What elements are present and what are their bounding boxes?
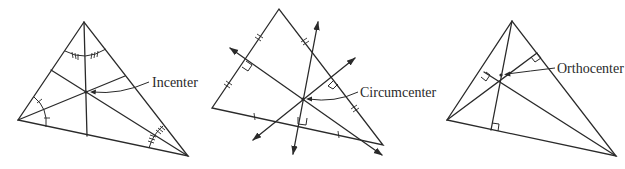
incenter-point	[84, 90, 87, 93]
circumcenter-triangle	[212, 9, 383, 145]
orthocenter-label: Orthocenter	[557, 61, 624, 76]
circumcenter-panel: Circumcenter	[212, 9, 437, 155]
orthocenter-leader	[507, 68, 555, 74]
orthocenter-point	[499, 73, 502, 76]
perp-bisector-left-side	[230, 48, 382, 155]
orthocenter-panel: Orthocenter	[447, 21, 624, 156]
circumcenter-leader	[308, 92, 358, 100]
incenter-leader	[92, 82, 149, 93]
circumcenter-label: Circumcenter	[360, 85, 437, 100]
incenter-panel: Incenter	[18, 22, 198, 156]
triangle-centers-figure: Incenter	[0, 0, 625, 169]
orthocenter-triangle	[447, 21, 616, 156]
altitude-from-right	[484, 72, 616, 156]
incenter-label: Incenter	[152, 75, 198, 90]
circumcenter-point	[301, 97, 304, 100]
right-angle-mark-right	[328, 81, 338, 89]
altitude-from-left	[447, 53, 537, 120]
perp-bisector-base	[293, 22, 318, 154]
bisector-from-apex	[84, 22, 87, 136]
